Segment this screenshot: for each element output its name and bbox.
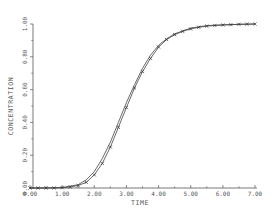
- x-marker-icon: [93, 173, 96, 176]
- y-axis-ticks: 0.000.200.400.600.801.00: [21, 16, 33, 195]
- x-marker-icon: [149, 57, 152, 60]
- x-tick-label: 7.00: [248, 190, 263, 197]
- x-marker-icon: [141, 70, 144, 73]
- y-axis-title: CONCENTRATION: [7, 77, 15, 136]
- y-tick-label: 0.60: [21, 82, 28, 97]
- axes: [30, 24, 257, 189]
- x-tick-label: 5.00: [183, 190, 198, 197]
- series-group: [28, 22, 256, 189]
- x-tick-label: 3.00: [119, 190, 134, 197]
- y-tick-label: 1.00: [21, 16, 28, 31]
- x-tick-label: 2.00: [87, 190, 102, 197]
- series-line-model: [30, 24, 255, 188]
- x-tick-label: 1.00: [55, 190, 70, 197]
- y-tick-label: 0.20: [21, 148, 28, 163]
- x-marker-icon: [109, 145, 112, 148]
- y-tick-label: 0.00: [21, 180, 28, 195]
- concentration-time-chart: 0.001.002.003.004.005.006.007.00 0.000.2…: [0, 0, 278, 214]
- x-marker-icon: [117, 126, 120, 129]
- x-axis-ticks: 0.001.002.003.004.005.006.007.00: [23, 185, 263, 197]
- series-line-data: [30, 24, 255, 188]
- x-tick-label: 4.00: [151, 190, 166, 197]
- x-axis-title: TIME: [131, 199, 149, 207]
- y-tick-label: 0.80: [21, 49, 28, 64]
- x-marker-icon: [101, 162, 104, 165]
- x-marker-icon: [85, 181, 88, 184]
- x-tick-label: 6.00: [216, 190, 231, 197]
- y-tick-label: 0.40: [21, 115, 28, 130]
